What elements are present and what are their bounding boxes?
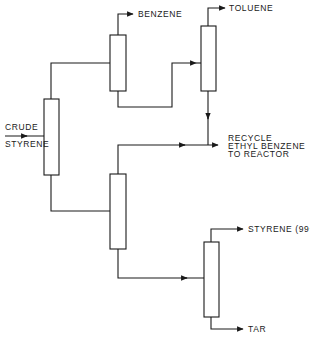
column-5-styrene (204, 242, 219, 317)
benzene-label: BENZENE (138, 10, 182, 19)
styrene-feed-label: STYRENE (5, 140, 49, 149)
col2-bottoms-stream (118, 63, 196, 107)
toluene-product-stream (208, 8, 225, 26)
toluene-label: TOLUENE (229, 4, 273, 13)
col1-overhead-stream (51, 63, 110, 99)
column-3-toluene (201, 26, 216, 91)
recycle-ethylbenzene-stream (118, 145, 218, 174)
styrene-product-stream (211, 229, 243, 242)
tar-label: TAR (248, 325, 266, 334)
styrene-product-label: STYRENE (99+%) (248, 225, 310, 234)
column-4-ethylbenzene (110, 174, 126, 249)
benzene-product-stream (118, 14, 133, 35)
tar-stream (211, 317, 243, 329)
column-2-benzene (110, 35, 126, 91)
crude-label: CRUDE (5, 123, 38, 132)
process-flow-diagram (0, 0, 310, 338)
column-1-crude-feed (44, 99, 59, 175)
col4-bottoms-stream (118, 249, 204, 278)
col1-bottoms-stream (51, 175, 110, 211)
to-reactor-label: TO REACTOR (228, 150, 289, 159)
